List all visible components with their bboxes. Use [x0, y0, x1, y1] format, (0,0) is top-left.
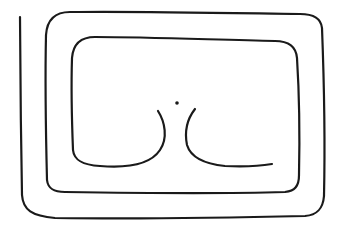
- center-dot: [175, 101, 179, 105]
- spiral-line: [20, 12, 324, 219]
- drawing-canvas: [0, 0, 345, 226]
- spiral-drawing: [0, 0, 345, 226]
- right-cusp-curve: [186, 109, 272, 166]
